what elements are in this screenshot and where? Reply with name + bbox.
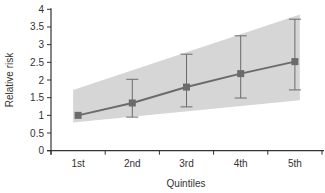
y-tick-label: 3: [38, 39, 44, 50]
y-axis-title: Relative risk: [4, 52, 15, 107]
y-tick-label: 3.5: [30, 21, 44, 32]
x-tick-label: 1st: [71, 158, 85, 169]
x-tick-label: 3rd: [179, 158, 193, 169]
relative-risk-chart: 00.511.522.533.54 1st2nd3rd4th5th Quinti…: [0, 0, 325, 193]
x-tick-label: 2nd: [124, 158, 141, 169]
y-tick-label: 0: [38, 145, 44, 156]
x-tick-label: 5th: [288, 158, 302, 169]
data-point-marker: [291, 58, 298, 65]
y-tick-label: 4: [38, 4, 44, 15]
y-tick-label: 2: [38, 75, 44, 86]
y-tick-label: 1: [38, 110, 44, 121]
y-axis-ticks: 00.511.522.533.54: [30, 4, 51, 156]
x-tick-label: 4th: [234, 158, 248, 169]
x-axis-title: Quintiles: [167, 178, 206, 189]
data-point-marker: [129, 99, 136, 106]
data-point-marker: [183, 84, 190, 91]
y-tick-label: 2.5: [30, 57, 44, 68]
x-axis-ticks: 1st2nd3rd4th5th: [51, 151, 322, 169]
y-tick-label: 1.5: [30, 92, 44, 103]
data-point-marker: [237, 70, 244, 77]
y-tick-label: 0.5: [30, 128, 44, 139]
data-point-marker: [75, 112, 82, 119]
